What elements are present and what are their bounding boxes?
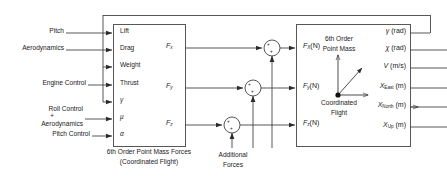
dynamics-output-xeast-unit: (m) bbox=[396, 82, 407, 89]
forces-port-gamma: γ bbox=[120, 97, 123, 104]
forces-output-fx: Fx bbox=[166, 42, 173, 51]
forces-port-mu: μ bbox=[120, 114, 124, 121]
input-label-engine-control: Engine Control bbox=[0, 80, 86, 87]
dynamics-output-chi-unit: (rad) bbox=[391, 44, 406, 51]
input-label-aerodynamics: Aerodynamics bbox=[0, 45, 64, 52]
dynamics-output-xeast-sub: East bbox=[384, 85, 393, 90]
dynamics-input-fy: Fy(N) bbox=[303, 82, 319, 91]
sum-fy-sign-2: + bbox=[251, 89, 254, 94]
forces-output-fy: Fy bbox=[166, 82, 173, 91]
sum-fx-sign-1: + bbox=[267, 42, 270, 47]
dynamics-output-xup: XUp (m) bbox=[330, 121, 406, 130]
forces-port-drag: Drag bbox=[120, 45, 134, 52]
sum-fy-sign-1: + bbox=[248, 82, 251, 87]
dynamics-output-gamma-base: γ bbox=[386, 27, 390, 34]
sum-fx-sign-2: + bbox=[270, 49, 273, 54]
dynamics-output-v-base: V bbox=[383, 62, 388, 69]
input-label-plus-sign: + bbox=[22, 113, 82, 120]
dynamics-output-v-unit: (m/s) bbox=[390, 62, 406, 69]
dynamics-output-xnorth-unit: (m) bbox=[396, 101, 407, 108]
dynamics-output-xup-unit: (m) bbox=[396, 121, 407, 128]
forces-output-fx-sub: x bbox=[170, 45, 172, 50]
dynamics-input-fy-unit: (N) bbox=[310, 82, 320, 89]
sum-fz-sign-2: + bbox=[230, 126, 233, 131]
dynamics-output-v: V (m/s) bbox=[338, 62, 406, 71]
dynamics-output-gamma: γ (rad) bbox=[338, 27, 406, 36]
dynamics-output-xnorth: XNorth (m) bbox=[330, 101, 406, 110]
dynamics-output-gamma-unit: (rad) bbox=[391, 27, 406, 34]
dynamics-input-fz: Fz(N) bbox=[303, 119, 319, 128]
dynamics-output-chi: χ (rad) bbox=[338, 44, 406, 53]
forces-port-weight: Weight bbox=[120, 62, 140, 69]
point-mass-icon-caption-line2: Flight bbox=[308, 110, 370, 117]
dynamics-output-xeast: XEast (m) bbox=[330, 82, 406, 91]
forces-port-thrust: Thrust bbox=[120, 80, 139, 87]
additional-forces-line1: Additional bbox=[203, 152, 263, 159]
input-label-pitch-control: Pitch Control bbox=[0, 131, 90, 138]
input-label-pitch: Pitch bbox=[0, 28, 64, 35]
input-label-roll-control: Roll Control bbox=[0, 106, 83, 113]
forces-block-caption-line1: 6th Order Point Mass Forces bbox=[88, 149, 210, 156]
forces-output-fz-sub: z bbox=[170, 122, 172, 127]
icon-point-mass-dot bbox=[335, 92, 340, 97]
sum-fz-sign-1: + bbox=[227, 119, 230, 124]
input-label-aerodynamics-2: Aerodynamics bbox=[0, 121, 83, 128]
point-mass-icon-label-line1: 6th Order bbox=[310, 36, 368, 43]
forces-port-alpha: α bbox=[120, 131, 124, 138]
dynamics-output-xup-sub: Up bbox=[388, 124, 394, 129]
forces-output-fz: Fz bbox=[166, 119, 173, 128]
additional-forces-line2: Forces bbox=[203, 162, 263, 169]
dynamics-input-fz-unit: (N) bbox=[310, 119, 320, 126]
forces-block-caption-line2: (Coordinated Flight) bbox=[88, 159, 210, 166]
block-diagram: Pitch Aerodynamics Engine Control Roll C… bbox=[0, 0, 447, 179]
forces-port-lift: Lift bbox=[120, 28, 129, 35]
dynamics-output-chi-base: χ bbox=[385, 44, 389, 51]
forces-output-fy-sub: y bbox=[170, 85, 172, 90]
dynamics-output-xnorth-sub: North bbox=[382, 104, 393, 109]
